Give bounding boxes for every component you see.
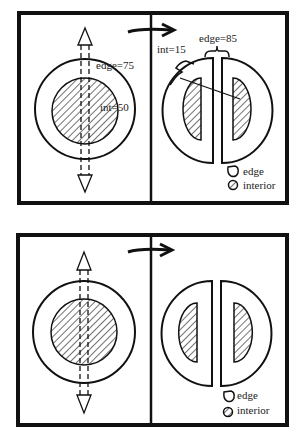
diagram-canvas: edge=75 int=50 edge=85 int=15 edge inter… bbox=[0, 0, 300, 440]
edge-label-before: edge=75 bbox=[96, 59, 134, 71]
interior-label-before: int=50 bbox=[100, 101, 129, 113]
legend: edge interior bbox=[228, 165, 276, 191]
whole-circle-before: edge=75 int=50 bbox=[35, 28, 135, 192]
interior-disc bbox=[51, 299, 117, 365]
split-halves-after bbox=[162, 281, 272, 386]
split-halves-after: edge=85 int=15 bbox=[157, 32, 272, 163]
top-panel: edge=75 int=50 edge=85 int=15 edge inter… bbox=[19, 13, 287, 203]
interior-legend-icon bbox=[224, 408, 233, 417]
legend-interior-label: interior bbox=[243, 179, 276, 191]
edge-legend-icon bbox=[228, 166, 238, 177]
edge-brace bbox=[205, 46, 229, 57]
interior-label-after: int=15 bbox=[157, 43, 186, 55]
edge-legend-icon bbox=[224, 391, 234, 402]
whole-circle-before bbox=[33, 252, 135, 413]
legend-edge-label: edge bbox=[237, 389, 258, 401]
bottom-panel: edge interior bbox=[18, 235, 287, 425]
edge-label-after: edge=85 bbox=[199, 32, 237, 44]
legend-edge-label: edge bbox=[243, 165, 264, 177]
interior-legend-icon bbox=[229, 181, 238, 190]
legend: edge interior bbox=[224, 389, 270, 417]
legend-interior-label: interior bbox=[237, 404, 270, 416]
